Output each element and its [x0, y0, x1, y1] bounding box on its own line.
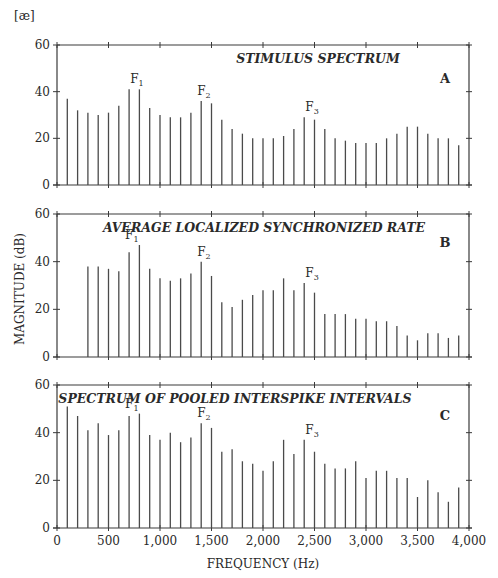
panel-letter: A — [439, 71, 451, 86]
x-tick-label: 500 — [97, 534, 120, 548]
panel-title: STIMULUS SPECTRUM — [236, 51, 401, 66]
vowel-label: [æ] — [14, 9, 35, 23]
y-tick-label: 40 — [35, 255, 50, 269]
x-tick-labels: 05001,0001,5002,0002,5003,0003,5004,000 — [53, 534, 486, 548]
panel-letter: C — [440, 408, 450, 423]
panel-title: AVERAGE LOCALIZED SYNCHRONIZED RATE — [102, 220, 426, 235]
y-tick-label: 60 — [35, 207, 50, 221]
formant-label: F2 — [197, 245, 210, 261]
panel-c-interspike-intervals: 0204060SPECTRUM OF POOLED INTERSPIKE INT… — [35, 378, 472, 535]
y-tick-label: 60 — [35, 378, 50, 392]
y-tick-label: 20 — [35, 131, 50, 145]
formant-label: F2 — [197, 84, 210, 100]
y-axis-label: MAGNITUDE (dB) — [13, 233, 27, 345]
formant-label: F3 — [305, 266, 318, 282]
x-tick-label: 3,000 — [349, 534, 383, 548]
x-tick-label: 1,500 — [194, 534, 228, 548]
y-tick-label: 40 — [35, 426, 50, 440]
y-tick-label: 0 — [42, 521, 50, 535]
y-tick-label: 20 — [35, 473, 50, 487]
x-tick-label: 2,500 — [297, 534, 331, 548]
x-tick-label: 2,000 — [246, 534, 280, 548]
formant-label: F2 — [197, 406, 210, 422]
formant-label: F1 — [130, 72, 143, 88]
y-tick-label: 0 — [42, 178, 50, 192]
panel-letter: B — [440, 235, 451, 250]
y-tick-label: 40 — [35, 85, 50, 99]
panel-title: SPECTRUM OF POOLED INTERSPIKE INTERVALS — [58, 391, 411, 406]
y-tick-label: 0 — [42, 350, 50, 364]
x-tick-label: 1,000 — [143, 534, 177, 548]
y-tick-label: 20 — [35, 302, 50, 316]
x-tick-label: 0 — [53, 534, 61, 548]
x-tick-label: 3,500 — [400, 534, 434, 548]
figure: [æ] MAGNITUDE (dB) FREQUENCY (Hz) 020406… — [0, 0, 498, 578]
formant-label: F3 — [305, 423, 318, 439]
x-axis-label: FREQUENCY (Hz) — [207, 557, 319, 571]
formant-label: F3 — [305, 100, 318, 116]
x-tick-label: 4,000 — [452, 534, 486, 548]
panel-b-synchronized-rate: 0204060AVERAGE LOCALIZED SYNCHRONIZED RA… — [35, 207, 472, 364]
panel-a-stimulus-spectrum: 0204060STIMULUS SPECTRUMAF1F2F3 — [35, 38, 472, 192]
y-tick-label: 60 — [35, 38, 50, 52]
